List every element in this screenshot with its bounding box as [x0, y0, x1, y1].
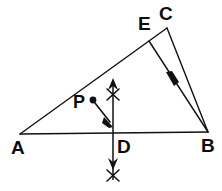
vertex-label-e: E	[138, 14, 151, 33]
pointer-from-P-shaft	[95, 103, 110, 122]
segment-AC	[20, 28, 167, 134]
point-label-p: P	[73, 93, 85, 111]
vertex-label-a: A	[11, 138, 25, 157]
segment-AB	[20, 132, 208, 134]
geometry-figure: A B C E D P	[0, 0, 222, 191]
segment-EB	[149, 41, 208, 132]
vertex-label-b: B	[201, 136, 215, 155]
vertex-label-c: C	[159, 4, 173, 23]
vertex-label-d: D	[117, 137, 131, 156]
geometry-diagram-canvas	[0, 0, 222, 191]
